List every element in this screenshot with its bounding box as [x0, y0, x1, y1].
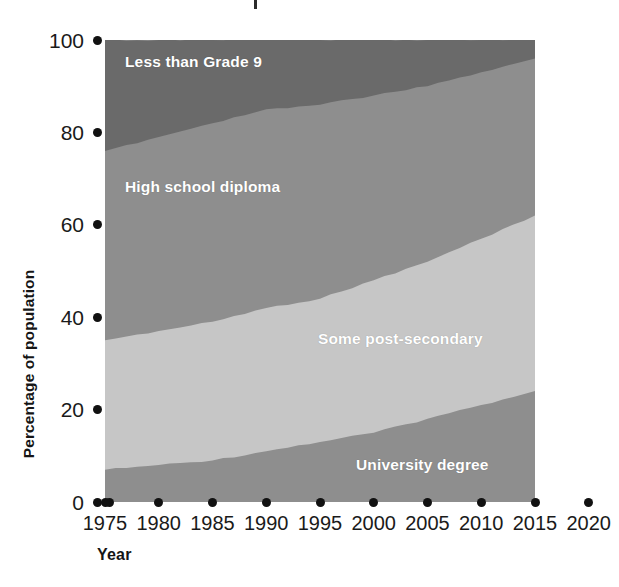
- x-tick-label-1995: 1995: [298, 513, 343, 533]
- x-tick-label-2000: 2000: [352, 513, 397, 533]
- y-axis-title: Percentage of population: [20, 249, 38, 479]
- x-tick-label-2015: 2015: [513, 513, 558, 533]
- x-tick-marker-dot-icon: [531, 498, 540, 507]
- x-tick-marker-dot-icon: [477, 498, 486, 507]
- x-tick-marker-dot-icon: [262, 498, 271, 507]
- x-tick-label-1980: 1980: [137, 513, 182, 533]
- series-label-high-school-diploma: High school diploma: [125, 178, 280, 196]
- y-tick-marker-dot-icon: [93, 128, 102, 137]
- y-tick-marker-dot-icon: [93, 36, 102, 45]
- y-tick-marker-dot-icon: [93, 220, 102, 229]
- y-tick-label: 0: [72, 492, 84, 513]
- series-label-less-than-grade-9: Less than Grade 9: [125, 53, 262, 71]
- y-tick-label: 100: [49, 30, 84, 51]
- x-tick-label-1975: 1975: [83, 513, 128, 533]
- x-tick-label-2010: 2010: [459, 513, 504, 533]
- x-axis-title: Year: [97, 546, 132, 564]
- x-tick-marker-dot-icon: [154, 498, 163, 507]
- x-tick-marker-dot-icon: [423, 498, 432, 507]
- x-tick-label-2005: 2005: [405, 513, 450, 533]
- y-tick-0: 0: [24, 493, 102, 511]
- y-tick-80: 80: [24, 123, 102, 141]
- y-tick-label: 80: [61, 122, 84, 143]
- y-tick-60: 60: [24, 216, 102, 234]
- series-label-some-post-secondary: Some post-secondary: [318, 330, 483, 348]
- x-tick-marker-dot-icon: [584, 498, 593, 507]
- x-tick-label-2020: 2020: [567, 513, 612, 533]
- area-bands: [105, 40, 535, 502]
- y-tick-label: 40: [61, 307, 84, 328]
- y-tick-100: 100: [24, 31, 102, 49]
- x-tick-marker-dot-icon: [316, 498, 325, 507]
- cropped-title-sliver: [254, 0, 257, 9]
- x-tick-marker-dot-icon: [369, 498, 378, 507]
- x-tick-label-1985: 1985: [190, 513, 235, 533]
- plot-area: [105, 40, 535, 502]
- x-tick-marker-dot-icon: [208, 498, 217, 507]
- y-tick-label: 60: [61, 214, 84, 235]
- stacked-area-chart: Less than Grade 9 High school diploma So…: [0, 0, 619, 587]
- y-tick-marker-dot-icon: [93, 405, 102, 414]
- y-tick-marker-dot-icon: [93, 313, 102, 322]
- x-tick-marker-dot-icon: [101, 498, 110, 507]
- series-label-university-degree: University degree: [356, 456, 489, 474]
- x-tick-label-1990: 1990: [244, 513, 289, 533]
- y-tick-label: 20: [61, 399, 84, 420]
